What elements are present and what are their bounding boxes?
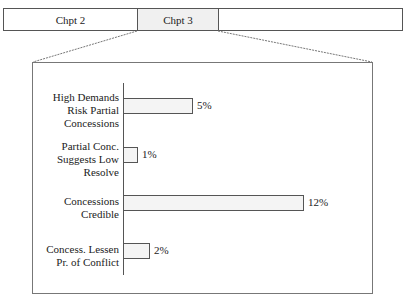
category-label-2: ConcessionsCredible [64, 195, 119, 221]
value-label-0: 5% [197, 99, 212, 111]
category-label-3: Concess. LessenPr. of Conflict [46, 243, 119, 269]
value-label-1: 1% [142, 148, 157, 160]
category-label-1: Partial Conc.Suggests LowResolve [57, 140, 119, 179]
category-label-0: High DemandsRisk PartialConcessions [53, 91, 119, 130]
bar-0 [124, 98, 193, 114]
bar-2 [124, 195, 304, 211]
value-label-2: 12% [308, 196, 328, 208]
bar-3 [124, 243, 150, 259]
value-label-3: 2% [154, 244, 169, 256]
bar-1 [124, 147, 138, 163]
